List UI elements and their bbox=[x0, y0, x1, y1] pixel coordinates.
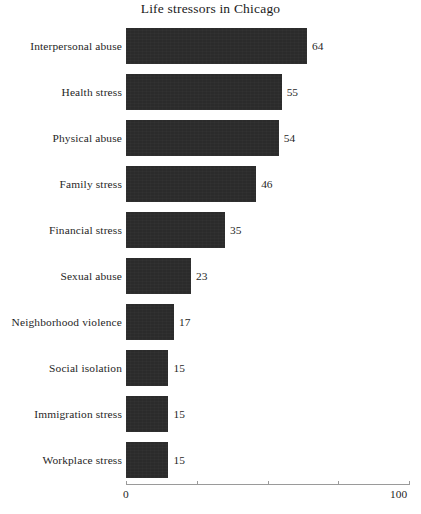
bar-chart: Life stressors in Chicago Interpersonal … bbox=[0, 0, 421, 514]
bar-row: Sexual abuse23 bbox=[0, 258, 421, 294]
x-axis: 0100 bbox=[126, 484, 409, 485]
bar-track: 15 bbox=[126, 442, 409, 478]
x-axis-tick bbox=[126, 481, 127, 485]
bar-value-label: 46 bbox=[261, 166, 272, 202]
bar-row: Immigration stress15 bbox=[0, 396, 421, 432]
x-axis-tick bbox=[338, 481, 339, 485]
bar-row: Social isolation15 bbox=[0, 350, 421, 386]
category-label: Family stress bbox=[60, 166, 122, 202]
bar-row: Health stress55 bbox=[0, 74, 421, 110]
category-label: Physical abuse bbox=[53, 120, 122, 156]
plot-area: Interpersonal abuse64Health stress55Phys… bbox=[0, 22, 421, 484]
x-axis-tick-label-max: 100 bbox=[390, 488, 407, 500]
bar bbox=[126, 212, 225, 248]
bar-track: 55 bbox=[126, 74, 409, 110]
bar bbox=[126, 442, 168, 478]
category-label: Health stress bbox=[62, 74, 122, 110]
bar bbox=[126, 120, 279, 156]
bar bbox=[126, 166, 256, 202]
bar-row: Interpersonal abuse64 bbox=[0, 28, 421, 64]
x-axis-tick bbox=[409, 481, 410, 485]
bar-track: 46 bbox=[126, 166, 409, 202]
bar-track: 15 bbox=[126, 350, 409, 386]
bar bbox=[126, 258, 191, 294]
bar bbox=[126, 74, 282, 110]
bar-track: 15 bbox=[126, 396, 409, 432]
bar-value-label: 15 bbox=[173, 350, 184, 386]
bar bbox=[126, 304, 174, 340]
category-label: Workplace stress bbox=[42, 442, 122, 478]
bar-track: 35 bbox=[126, 212, 409, 248]
bar-track: 64 bbox=[126, 28, 409, 64]
category-label: Neighborhood violence bbox=[12, 304, 122, 340]
category-label: Interpersonal abuse bbox=[30, 28, 122, 64]
x-axis-tick bbox=[197, 481, 198, 485]
bar-value-label: 15 bbox=[173, 442, 184, 478]
bar bbox=[126, 350, 168, 386]
bar-row: Physical abuse54 bbox=[0, 120, 421, 156]
bar-row: Financial stress35 bbox=[0, 212, 421, 248]
bar-value-label: 64 bbox=[312, 28, 323, 64]
bar-value-label: 23 bbox=[196, 258, 207, 294]
category-label: Sexual abuse bbox=[60, 258, 122, 294]
bar-value-label: 35 bbox=[230, 212, 241, 248]
bar-value-label: 54 bbox=[284, 120, 295, 156]
bar-track: 23 bbox=[126, 258, 409, 294]
bar-row: Neighborhood violence17 bbox=[0, 304, 421, 340]
category-label: Social isolation bbox=[49, 350, 122, 386]
bar-value-label: 17 bbox=[179, 304, 190, 340]
bar bbox=[126, 396, 168, 432]
chart-title: Life stressors in Chicago bbox=[0, 1, 421, 17]
bar-track: 17 bbox=[126, 304, 409, 340]
bar-row: Family stress46 bbox=[0, 166, 421, 202]
bar-track: 54 bbox=[126, 120, 409, 156]
x-axis-tick bbox=[268, 481, 269, 485]
category-label: Immigration stress bbox=[34, 396, 122, 432]
bar bbox=[126, 28, 307, 64]
bar-value-label: 15 bbox=[173, 396, 184, 432]
bar-value-label: 55 bbox=[287, 74, 298, 110]
bar-row: Workplace stress15 bbox=[0, 442, 421, 478]
category-label: Financial stress bbox=[49, 212, 122, 248]
x-axis-tick-label-min: 0 bbox=[123, 488, 129, 500]
